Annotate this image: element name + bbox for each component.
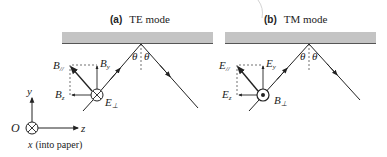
panel-b-angle-right: θ [312, 50, 318, 62]
scan-artifact [258, 0, 263, 18]
panel-b-title: (b) TM mode [264, 9, 328, 26]
panel-a-mirror [62, 32, 213, 43]
origin-label: O [11, 121, 20, 135]
panel-b-angle-left: θ [300, 50, 306, 62]
panel-a-incident-arrow [110, 68, 120, 80]
y-axis-label: y [26, 85, 32, 97]
waveguide-mode-diagram: (a) TE mode θ θ B// By Bz E⊥ [0, 0, 387, 157]
panel-b-b-perp-label: B⊥ [274, 94, 287, 108]
x-axis-label: x(into paper) [27, 139, 82, 151]
panel-a-title-text: TE mode [129, 13, 170, 25]
panel-a-b-y-label: By [100, 57, 111, 71]
panel-b-letter: (b) [264, 14, 277, 25]
panel-a-angle-left: θ [132, 50, 138, 62]
panel-a-b-z-label: Bz [55, 88, 65, 102]
panel-b-mirror [225, 32, 376, 43]
panel-b-e-parallel-vector [238, 67, 258, 91]
panel-b-dot [261, 93, 265, 97]
panel-b-title-text: TM mode [284, 13, 328, 25]
panel-a-b-parallel-vector [71, 67, 92, 91]
panel-a-te-mode: (a) TE mode θ θ B// By Bz E⊥ [53, 9, 213, 111]
panel-b-wavevector-tail [249, 100, 259, 111]
panel-a-wavevector-tail [83, 100, 93, 111]
panel-b-e-y-label: Ey [265, 57, 277, 71]
panel-b-tm-mode: (b) TM mode θ θ E// Ey Ez B⊥ [218, 9, 376, 111]
panel-b-incident-arrow [277, 68, 287, 79]
panel-b-e-parallel-label: E// [218, 59, 231, 73]
panel-a-letter: (a) [110, 14, 122, 25]
panel-b-e-z-label: Ez [221, 88, 232, 102]
panel-a-angle-right: θ [144, 50, 150, 62]
panel-a-title: (a) TE mode [110, 9, 170, 26]
panel-a-b-parallel-label: B// [53, 59, 65, 73]
panel-b-reflected-arrow [327, 64, 337, 75]
panel-a-e-perp-label: E⊥ [104, 96, 118, 110]
panel-a-reflected-arrow [160, 65, 170, 76]
z-axis-label: z [80, 122, 86, 134]
